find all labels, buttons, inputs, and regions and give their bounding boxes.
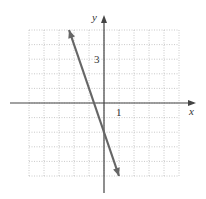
coordinate-plane: x y 1 3 [0,0,206,199]
line-arrow-icon [68,30,75,39]
x-axis-label: x [188,105,194,117]
y-axis-arrow-icon [101,15,107,23]
y-tick-label: 3 [94,53,100,65]
y-axis-label: y [91,11,97,23]
line-arrow-icon [113,167,120,176]
x-tick-label: 1 [116,106,122,118]
